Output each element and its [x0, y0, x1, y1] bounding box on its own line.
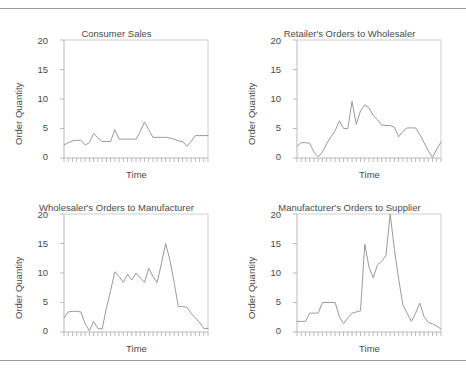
y-axis-label-consumer-sales: Order Quantity	[13, 83, 24, 145]
x-axis-label-consumer-sales: Time	[64, 169, 209, 180]
y-tick-20-manufacturer-orders: 20	[259, 209, 281, 220]
x-ticks-manufacturer-orders	[297, 332, 441, 336]
x-ticks-wholesaler-orders	[64, 332, 208, 336]
y-tick-0-retailer-orders: 0	[259, 151, 281, 162]
y-tick-5-consumer-sales: 5	[26, 122, 48, 133]
data-line-consumer-sales	[64, 122, 208, 146]
plot-svg-wholesaler-orders	[55, 214, 210, 339]
y-tick-20-retailer-orders: 20	[259, 35, 281, 46]
y-tick-15-retailer-orders: 15	[259, 64, 281, 75]
y-tick-15-manufacturer-orders: 15	[259, 238, 281, 249]
y-tick-10-consumer-sales: 10	[26, 93, 48, 104]
plot-svg-retailer-orders	[288, 40, 443, 165]
data-line-wholesaler-orders	[64, 244, 208, 331]
y-tick-20-consumer-sales: 20	[26, 35, 48, 46]
plot-area-wholesaler-orders	[55, 214, 210, 339]
y-tick-0-consumer-sales: 0	[26, 151, 48, 162]
chart-panel-wholesaler-orders: Wholesaler's Orders to Manufacturer Orde…	[0, 186, 233, 360]
y-axis-label-wholesaler-orders: Order Quantity	[13, 257, 24, 319]
y-tick-15-consumer-sales: 15	[26, 64, 48, 75]
axes-retailer-orders	[293, 40, 441, 158]
x-axis-label-wholesaler-orders: Time	[64, 343, 209, 354]
x-axis-label-manufacturer-orders: Time	[297, 343, 442, 354]
data-line-retailer-orders	[297, 101, 441, 157]
plot-area-consumer-sales	[55, 40, 210, 165]
y-tick-10-wholesaler-orders: 10	[26, 267, 48, 278]
chart-panel-manufacturer-orders: Manufacturer's Orders to Supplier Order …	[233, 186, 466, 360]
y-tick-5-wholesaler-orders: 5	[26, 296, 48, 307]
chart-panel-retailer-orders: Retailer's Orders to Wholesaler Order Qu…	[233, 9, 466, 186]
plot-area-manufacturer-orders	[288, 214, 443, 339]
data-line-manufacturer-orders	[297, 214, 441, 329]
panel-grid: Consumer Sales Order Quantity Time 20 15…	[0, 9, 466, 360]
figure-container: Consumer Sales Order Quantity Time 20 15…	[0, 0, 466, 373]
y-tick-15-wholesaler-orders: 15	[26, 238, 48, 249]
y-axis-label-retailer-orders: Order Quantity	[246, 83, 257, 145]
y-tick-10-manufacturer-orders: 10	[259, 267, 281, 278]
x-ticks-consumer-sales	[64, 158, 208, 162]
x-ticks-retailer-orders	[297, 158, 441, 162]
plot-svg-consumer-sales	[55, 40, 210, 165]
y-tick-0-wholesaler-orders: 0	[26, 325, 48, 336]
y-tick-20-wholesaler-orders: 20	[26, 209, 48, 220]
y-tick-5-manufacturer-orders: 5	[259, 296, 281, 307]
axes-manufacturer-orders	[293, 214, 441, 332]
x-axis-label-retailer-orders: Time	[297, 169, 442, 180]
plot-svg-manufacturer-orders	[288, 214, 443, 339]
y-tick-5-retailer-orders: 5	[259, 122, 281, 133]
y-tick-10-retailer-orders: 10	[259, 93, 281, 104]
y-tick-0-manufacturer-orders: 0	[259, 325, 281, 336]
figure-bottom-rule	[0, 360, 466, 361]
axes-consumer-sales	[60, 40, 208, 158]
y-axis-label-manufacturer-orders: Order Quantity	[246, 257, 257, 319]
chart-panel-consumer-sales: Consumer Sales Order Quantity Time 20 15…	[0, 9, 233, 186]
plot-area-retailer-orders	[288, 40, 443, 165]
